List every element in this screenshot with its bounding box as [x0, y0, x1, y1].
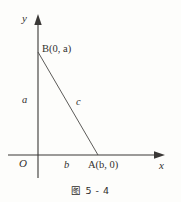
point-b-label: B(0, a) — [42, 44, 71, 55]
vertical-leg-label: a — [22, 95, 27, 106]
hypotenuse-label: c — [76, 97, 81, 108]
coordinate-plot — [0, 0, 181, 182]
origin-label: O — [19, 158, 27, 169]
x-axis-arrow-icon — [154, 151, 165, 158]
figure-container: y x O B(0, a) A(b, 0) a b c 图 5 - 4 — [0, 0, 181, 202]
y-axis-label: y — [22, 13, 27, 24]
point-a-label: A(b, 0) — [88, 160, 118, 171]
horizontal-leg-label: b — [64, 160, 69, 171]
figure-caption: 图 5 - 4 — [0, 183, 181, 197]
y-axis-arrow-icon — [34, 14, 41, 25]
hypotenuse-segment — [38, 52, 98, 155]
x-axis-label: x — [159, 160, 164, 171]
